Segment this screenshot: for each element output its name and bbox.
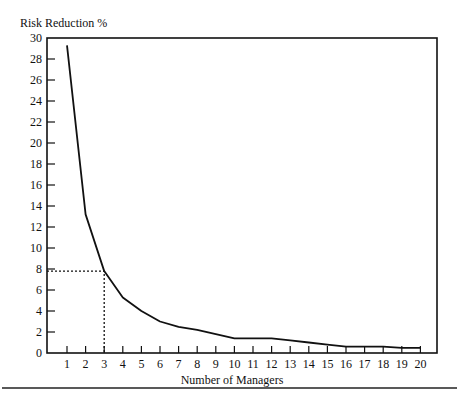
x-tick-label: 17	[359, 357, 371, 371]
y-tick-label: 0	[36, 346, 42, 360]
x-tick-label: 15	[321, 357, 333, 371]
x-tick-label: 9	[213, 357, 219, 371]
x-tick-label: 18	[377, 357, 389, 371]
x-tick-label: 2	[83, 357, 89, 371]
risk-reduction-line	[67, 45, 420, 347]
x-tick-label: 19	[396, 357, 408, 371]
plot-frame	[47, 38, 437, 353]
y-tick-label: 8	[36, 262, 42, 276]
risk-reduction-chart: Risk Reduction %024681012141618202224262…	[0, 0, 459, 404]
x-tick-label: 6	[157, 357, 163, 371]
x-tick-label: 11	[247, 357, 259, 371]
y-tick-label: 24	[30, 94, 42, 108]
x-tick-label: 8	[194, 357, 200, 371]
y-tick-label: 12	[30, 220, 42, 234]
y-tick-label: 20	[30, 136, 42, 150]
dotted-guide-line	[47, 271, 104, 353]
x-tick-label: 4	[120, 357, 126, 371]
y-tick-label: 18	[30, 157, 42, 171]
x-tick-label: 7	[176, 357, 182, 371]
x-tick-label: 10	[228, 357, 240, 371]
y-tick-label: 6	[36, 283, 42, 297]
x-tick-label: 12	[266, 357, 278, 371]
y-tick-label: 16	[30, 178, 42, 192]
y-tick-label: 28	[30, 52, 42, 66]
y-tick-label: 30	[30, 31, 42, 45]
y-tick-label: 4	[36, 304, 42, 318]
y-tick-label: 22	[30, 115, 42, 129]
x-tick-label: 20	[414, 357, 426, 371]
y-tick-label: 2	[36, 325, 42, 339]
x-tick-label: 3	[101, 357, 107, 371]
x-tick-label: 16	[340, 357, 352, 371]
y-tick-label: 14	[30, 199, 42, 213]
y-tick-label: 26	[30, 73, 42, 87]
y-tick-label: 10	[30, 241, 42, 255]
x-axis-label: Number of Managers	[181, 373, 284, 387]
y-axis-label: Risk Reduction %	[20, 16, 107, 30]
x-tick-label: 13	[284, 357, 296, 371]
x-tick-label: 1	[64, 357, 70, 371]
x-tick-label: 14	[303, 357, 315, 371]
x-tick-label: 5	[138, 357, 144, 371]
